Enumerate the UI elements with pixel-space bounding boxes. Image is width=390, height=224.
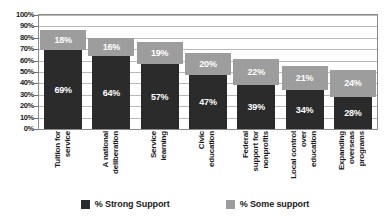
legend-item: % Some support: [226, 199, 310, 209]
x-axis-category-label: Local controlovereducation: [279, 131, 327, 191]
bar-group: 39%22%: [237, 15, 275, 129]
bar-segment-strong-support: 28%: [334, 97, 372, 129]
x-axis-category-line: education: [309, 131, 318, 167]
bar-segment-some-support: 16%: [88, 38, 134, 56]
bar-group: 47%20%: [189, 15, 227, 129]
y-axis-tick-label: 60%: [20, 57, 34, 65]
x-axis-category-line: deliberation: [111, 131, 120, 174]
y-axis-tick-label: 30%: [20, 91, 34, 99]
x-axis-category-line: education: [207, 131, 216, 167]
bar-segment-some-support: 20%: [185, 53, 231, 76]
x-axis-category-line: Service: [149, 131, 158, 158]
bar-segment-some-support: 21%: [282, 66, 328, 90]
x-axis-category-label: Federalsupport fornonprofits: [231, 131, 279, 191]
bar-segment-strong-support: 47%: [189, 75, 227, 129]
x-axis-category-line: Expanding: [337, 131, 346, 170]
bar-segment-strong-support: 39%: [237, 85, 275, 129]
x-axis-category-line: Civic: [197, 131, 206, 149]
x-axis-category-line: A national: [101, 131, 110, 167]
bar-series-container: 69%18%64%16%57%19%47%20%39%22%34%21%28%2…: [39, 15, 377, 129]
x-axis-category-line: support for: [251, 131, 260, 171]
legend-label: % Strong Support: [95, 199, 170, 209]
x-axis-labels: Tuition forserviceA nationaldeliberation…: [38, 131, 378, 193]
x-axis-category-label: Tuition forservice: [38, 131, 86, 191]
y-axis-tick-label: 40%: [20, 79, 34, 87]
bar-segment-some-support: 18%: [40, 30, 86, 51]
stacked-bar-chart: 100%90%80%70%60%50%40%30%20%10%0% 69%18%…: [0, 0, 390, 224]
x-axis-category-label: Civiceducation: [183, 131, 231, 191]
x-axis-category-line: overseas: [347, 131, 356, 164]
y-axis-tick-label: 20%: [20, 102, 34, 110]
bar-group: 64%16%: [92, 15, 130, 129]
y-axis-tick-label: 0%: [24, 125, 34, 133]
bar-segment-some-support: 24%: [330, 70, 376, 97]
legend-swatch-some-support: [226, 200, 235, 209]
plot-area: 69%18%64%16%57%19%47%20%39%22%34%21%28%2…: [38, 14, 378, 130]
bar-group: 28%24%: [334, 15, 372, 129]
x-axis-category-line: over: [299, 131, 308, 147]
x-axis-category-line: nonprofits: [261, 131, 270, 169]
y-axis: 100%90%80%70%60%50%40%30%20%10%0%: [0, 14, 34, 130]
legend-label: % Some support: [240, 199, 310, 209]
bar-segment-strong-support: 57%: [141, 64, 179, 129]
bar-group: 34%21%: [286, 15, 324, 129]
x-axis-category-label: A nationaldeliberation: [86, 131, 134, 191]
x-axis-category-label: Servicelearning: [135, 131, 183, 191]
bar-segment-some-support: 22%: [233, 59, 279, 84]
x-axis-category-line: programs: [357, 131, 366, 166]
y-axis-tick-label: 90%: [20, 22, 34, 30]
bar-segment-strong-support: 69%: [44, 50, 82, 129]
x-axis-category-line: service: [63, 131, 72, 157]
legend-item: % Strong Support: [81, 199, 170, 209]
chart-legend: % Strong Support% Some support: [0, 196, 390, 212]
bar-segment-some-support: 19%: [137, 42, 183, 64]
x-axis-category-line: learning: [159, 131, 168, 161]
y-axis-tick-label: 50%: [20, 68, 34, 76]
y-axis-tick-label: 80%: [20, 34, 34, 42]
y-axis-tick-label: 100%: [16, 11, 34, 19]
y-axis-tick-label: 70%: [20, 45, 34, 53]
x-axis-category-line: Tuition for: [53, 131, 62, 168]
x-axis-category-line: Federal: [241, 131, 250, 158]
y-axis-tick-label: 10%: [20, 114, 34, 122]
bar-segment-strong-support: 34%: [286, 90, 324, 129]
bar-group: 57%19%: [141, 15, 179, 129]
bar-group: 69%18%: [44, 15, 82, 129]
legend-swatch-strong-support: [81, 200, 90, 209]
bar-segment-strong-support: 64%: [92, 56, 130, 129]
x-axis-category-line: Local control: [289, 131, 298, 179]
x-axis-category-label: Expandingoverseasprograms: [328, 131, 376, 191]
